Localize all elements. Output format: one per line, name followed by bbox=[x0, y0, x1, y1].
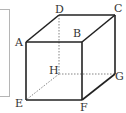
label-f: F bbox=[80, 101, 88, 113]
edge-da bbox=[26, 15, 59, 42]
label-d: D bbox=[55, 3, 64, 16]
edge-he bbox=[26, 74, 59, 100]
label-c: C bbox=[114, 2, 122, 15]
label-g: G bbox=[115, 70, 124, 83]
edge-bc bbox=[82, 15, 115, 42]
hidden-edges bbox=[26, 15, 115, 100]
label-h: H bbox=[49, 64, 59, 77]
visible-edges bbox=[26, 15, 115, 100]
edge-fg bbox=[82, 74, 115, 100]
label-e: E bbox=[15, 97, 23, 110]
cube-diagram: D C A B H G E F bbox=[0, 0, 126, 113]
label-a: A bbox=[14, 36, 24, 49]
label-b: B bbox=[73, 27, 81, 40]
